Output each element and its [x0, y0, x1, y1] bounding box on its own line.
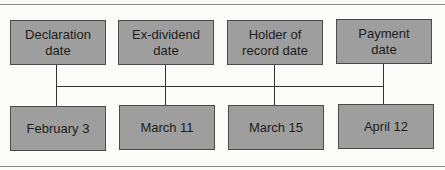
box-label: Payment date	[354, 26, 414, 58]
connector-bottom-3	[274, 86, 275, 106]
connector-bottom-1	[56, 86, 57, 106]
declaration-date-box: Declaration date	[10, 20, 106, 65]
box-label: Declaration date	[18, 27, 98, 59]
april-12-box: April 12	[338, 104, 434, 149]
march-11-box: March 11	[119, 105, 215, 150]
connector-top-2	[165, 64, 166, 86]
connector-top-4	[383, 64, 384, 86]
february-3-box: February 3	[10, 106, 106, 151]
connector-top-3	[274, 64, 275, 86]
connector-bottom-4	[383, 86, 384, 106]
box-label: April 12	[364, 119, 408, 135]
box-label: Holder of record date	[229, 27, 321, 59]
holder-of-record-date-box: Holder of record date	[227, 20, 323, 65]
box-label: February 3	[27, 121, 90, 137]
connector-top-1	[56, 64, 57, 86]
box-label: March 15	[249, 120, 303, 136]
top-rule	[0, 4, 445, 5]
timeline-connector	[56, 86, 384, 87]
payment-date-box: Payment date	[336, 19, 432, 64]
ex-dividend-date-box: Ex-dividend date	[118, 20, 214, 65]
march-15-box: March 15	[228, 105, 324, 150]
bottom-rule	[0, 166, 445, 167]
connector-bottom-2	[165, 86, 166, 106]
box-label: March 11	[140, 120, 193, 136]
box-label: Ex-dividend date	[126, 27, 206, 59]
